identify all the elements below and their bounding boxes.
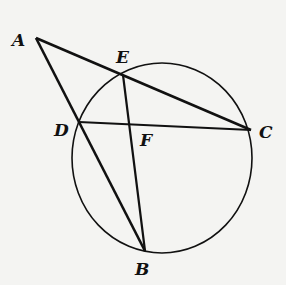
segment-DC <box>79 122 251 130</box>
label-F: F <box>139 130 154 150</box>
label-E: E <box>115 47 130 67</box>
label-D: D <box>53 120 69 140</box>
label-A: A <box>10 30 25 50</box>
label-C: C <box>259 122 273 142</box>
label-B: B <box>134 259 149 279</box>
geometry-diagram: A E D F C B <box>0 0 286 285</box>
segment-EB <box>123 75 145 251</box>
